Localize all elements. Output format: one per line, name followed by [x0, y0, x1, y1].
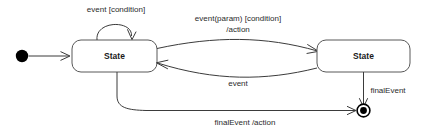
transition-left-to-final-path: [117, 72, 355, 111]
state-left-label: State: [104, 51, 125, 61]
final-state-inner-dot: [360, 107, 367, 114]
state-machine-canvas: State event [condition] event(param) [co…: [0, 0, 427, 133]
state-node-left[interactable]: State: [72, 40, 157, 72]
transition-left-to-right-label-line2: /action: [226, 25, 250, 34]
transition-self-loop[interactable]: event [condition]: [87, 5, 145, 40]
initial-state-circle: [16, 50, 28, 62]
initial-pseudostate-node[interactable]: [16, 50, 28, 62]
state-node-right[interactable]: State: [317, 40, 410, 72]
transition-left-to-right-label-line1: event(param) [condition]: [195, 14, 281, 23]
transition-left-to-right[interactable]: event(param) [condition] /action: [157, 14, 319, 53]
transition-left-to-final-label: finalEvent /action: [215, 118, 276, 127]
transition-right-to-final[interactable]: finalEvent: [359, 72, 406, 107]
transition-self-loop-label: event [condition]: [87, 5, 145, 14]
transition-self-loop-arc: [97, 24, 132, 40]
transition-right-to-left-arc: [158, 63, 318, 77]
state-machine-diagram: State event [condition] event(param) [co…: [0, 0, 427, 133]
final-state-node[interactable]: [357, 104, 370, 117]
transition-left-to-right-arc: [157, 39, 318, 51]
transition-initial-to-state-left[interactable]: [29, 52, 71, 61]
transition-right-to-final-label: finalEvent: [370, 86, 406, 95]
state-right-label: State: [353, 51, 374, 61]
transition-right-to-left-label: event: [228, 79, 248, 88]
transition-right-to-left[interactable]: event: [156, 60, 317, 88]
